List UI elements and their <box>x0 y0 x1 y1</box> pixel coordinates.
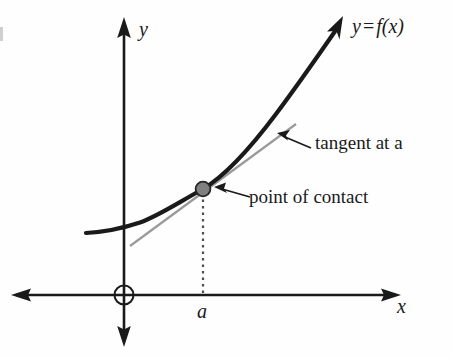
point-of-contact-annotation-label: point of contact <box>249 187 368 206</box>
point-of-contact-leader-line <box>222 189 250 197</box>
figure-canvas <box>0 0 452 357</box>
point-of-contact-dot <box>196 182 211 197</box>
x-tick-label-a: a <box>197 301 207 321</box>
curve-equation-equals: = <box>361 15 376 37</box>
x-axis-left-arrow-icon <box>11 289 31 302</box>
tangent-line <box>130 124 296 246</box>
left-edge-artifact <box>0 27 3 41</box>
curve-equation-label: y=f(x) <box>352 16 404 36</box>
y-axis-label: y <box>139 19 148 39</box>
tangent-leader-line <box>285 137 311 148</box>
tangent-line-figure: y=f(x) tangent at a point of contact y x… <box>0 0 452 357</box>
x-axis-label: x <box>397 296 406 316</box>
tangent-annotation-label: tangent at a <box>315 133 403 152</box>
curve-equation-fx: f(x) <box>376 15 404 37</box>
curve-equation-y: y <box>352 15 361 37</box>
